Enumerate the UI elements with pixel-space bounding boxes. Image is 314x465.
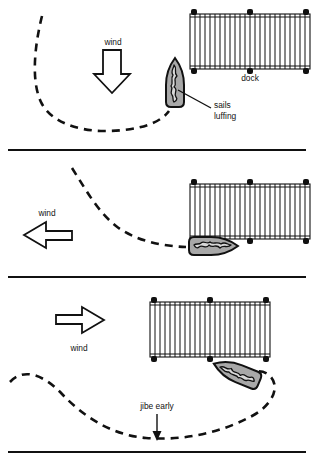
panel-2-dock bbox=[190, 179, 310, 244]
panel-3-boat bbox=[210, 355, 262, 390]
panel-1-wind-arrow bbox=[94, 50, 130, 93]
panel-2: wind bbox=[24, 168, 310, 255]
panel-3-dock bbox=[150, 297, 270, 362]
panel-2-wind-arrow bbox=[24, 222, 72, 248]
panel-1-callout-line1: sails bbox=[214, 100, 231, 110]
sailing-diagram-figure: dock wind sails luffing wind bbox=[0, 0, 314, 465]
panel-2-wind-label: wind bbox=[37, 208, 56, 218]
panel-3-wind-arrow bbox=[56, 307, 104, 333]
panel-1-dock bbox=[190, 9, 310, 74]
panel-2-approach-path bbox=[72, 168, 186, 247]
panel-1-boat bbox=[166, 58, 184, 107]
panel-3-annotation-label: jibe early bbox=[139, 401, 174, 411]
diagram-canvas: dock wind sails luffing wind bbox=[0, 0, 314, 465]
panel-2-boat bbox=[189, 237, 238, 255]
panel-1-dock-label: dock bbox=[241, 73, 260, 83]
panel-1-wind-label: wind bbox=[103, 37, 122, 47]
panel-1: dock wind sails luffing bbox=[35, 9, 310, 131]
panel-3: wind jibe early bbox=[10, 297, 275, 441]
panel-3-annotation-arrow bbox=[153, 414, 162, 441]
panel-1-callout-line2: luffing bbox=[214, 111, 237, 121]
panel-3-wind-label: wind bbox=[69, 343, 88, 353]
